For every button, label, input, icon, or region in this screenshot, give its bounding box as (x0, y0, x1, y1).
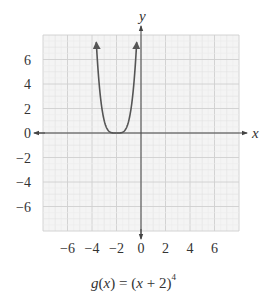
x-tick-label: −6 (60, 241, 75, 256)
x-tick-label: −2 (109, 241, 124, 256)
graph-plot: −6−4−202466420−2−4−6 x y (0, 0, 267, 270)
x-tick-label: 4 (187, 241, 194, 256)
y-tick-label: 6 (24, 53, 31, 68)
y-tick-label: 4 (24, 77, 31, 92)
caption-exponent: 4 (171, 272, 176, 282)
x-tick-label: −4 (85, 241, 100, 256)
y-tick-label: 0 (24, 126, 31, 141)
function-caption: g(x) = (x + 2)4 (0, 272, 267, 292)
y-tick-label: −2 (16, 151, 31, 166)
caption-inner-var: x (136, 275, 143, 291)
x-axis-label: x (251, 125, 259, 141)
y-tick-label: −4 (16, 175, 31, 190)
caption-plus: + 2 (143, 275, 166, 291)
y-axis-label: y (137, 8, 146, 24)
caption-equals: = (115, 275, 131, 291)
caption-fn-name: g (91, 275, 99, 291)
y-tick-label: −6 (16, 200, 31, 215)
x-tick-label: 6 (211, 241, 218, 256)
x-tick-label: 2 (162, 241, 169, 256)
x-tick-label: 0 (138, 241, 145, 256)
y-tick-label: 2 (24, 102, 31, 117)
